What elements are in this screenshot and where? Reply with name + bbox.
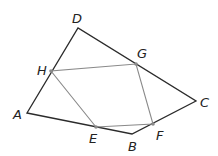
label-e: E	[89, 131, 98, 146]
label-h: H	[37, 63, 47, 78]
point-h-marker	[49, 69, 53, 73]
label-d: D	[72, 11, 82, 26]
quadrilateral-efgh	[51, 64, 153, 127]
quadrilateral-abcd	[27, 28, 196, 134]
label-b: B	[128, 139, 137, 154]
label-c: C	[200, 95, 210, 110]
point-f-marker	[151, 122, 155, 126]
quadrilateral-diagram: A B C D E F G H	[0, 0, 218, 156]
point-e-marker	[94, 125, 98, 129]
midpoint-markers	[49, 62, 155, 129]
label-g: G	[137, 46, 147, 61]
point-g-marker	[134, 62, 138, 66]
label-f: F	[156, 128, 164, 143]
label-a: A	[12, 107, 22, 122]
